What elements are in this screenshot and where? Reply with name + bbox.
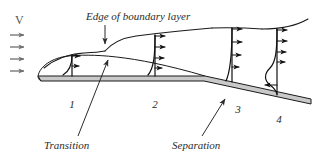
freestream-flow-group [10, 35, 24, 71]
transition-label: Transition [44, 139, 90, 151]
edge-callout-label: Edge of boundary layer [85, 10, 191, 22]
velocity-profile-station-1 [63, 55, 80, 76]
velocity-profile-station-3 [226, 28, 242, 82]
separation-leader [202, 99, 225, 136]
boundary-layer-edge-group [44, 19, 308, 68]
station-label-1: 1 [69, 98, 75, 110]
boundary-layer-edge-wake [262, 19, 308, 29]
separation-callout-group: Separation [172, 99, 225, 151]
edge-callout-group: Edge of boundary layer [85, 10, 191, 44]
velocity-profile-station-2 [148, 35, 165, 76]
station-label-4: 4 [276, 113, 282, 125]
separation-label: Separation [172, 139, 221, 151]
station-label-3: 3 [234, 103, 241, 115]
freestream-velocity-label: V [15, 13, 24, 27]
boundary-layer-figure: V 1 [0, 0, 322, 162]
station-3-profile-curve [226, 28, 232, 81]
transition-callout-group: Transition [44, 60, 108, 151]
velocity-profile-station-4 [265, 29, 287, 95]
body-plate-and-ramp [38, 76, 311, 104]
station-4-profile-curve [266, 29, 278, 94]
transition-leader [78, 60, 108, 136]
body-surface-group [38, 55, 311, 104]
station-label-2: 2 [152, 98, 158, 110]
station-2-profile-curve [148, 35, 155, 75]
station-1-profile-curve [63, 55, 72, 75]
body-upper-nose-curve [38, 55, 205, 76]
diagram-canvas: V 1 [0, 0, 322, 162]
